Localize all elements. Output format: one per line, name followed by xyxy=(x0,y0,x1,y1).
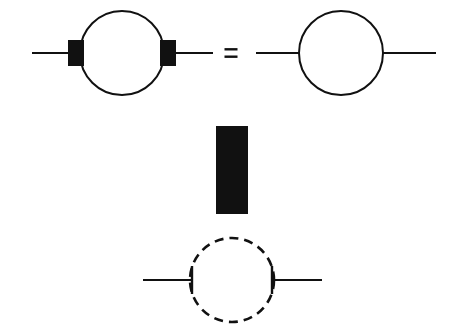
lhs-loop-circle xyxy=(80,11,164,95)
lhs-right-vertex-blob xyxy=(160,40,176,66)
rhs-loop-circle xyxy=(299,11,383,95)
center-filled-rectangle xyxy=(216,126,248,214)
lhs-left-vertex-blob xyxy=(68,40,84,66)
lhs-loop-with-vertex-insertions xyxy=(32,11,213,95)
rhs-plain-loop xyxy=(256,11,436,95)
ghost-dashed-loop xyxy=(143,238,322,322)
ghost-loop-circle xyxy=(190,238,274,322)
mass-insertion-blob xyxy=(216,126,248,214)
figure-canvas xyxy=(0,0,460,329)
equals-sign-lower-bar xyxy=(225,56,238,58)
equals-sign-upper-bar xyxy=(225,48,238,50)
feynman-diagram-figure xyxy=(0,0,460,329)
equals-sign xyxy=(225,48,238,58)
